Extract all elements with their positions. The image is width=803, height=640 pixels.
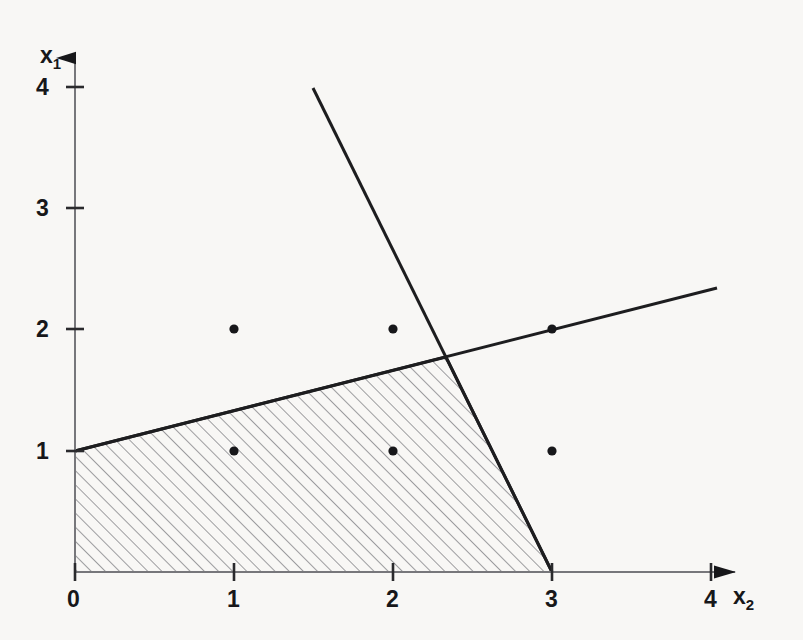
data-point bbox=[229, 324, 238, 333]
y-axis-title-subscript: 1 bbox=[53, 55, 61, 72]
data-point bbox=[388, 324, 397, 333]
x-axis-title: x2 bbox=[733, 585, 754, 612]
data-point bbox=[229, 446, 238, 455]
data-point bbox=[547, 324, 556, 333]
data-point bbox=[547, 446, 556, 455]
x-tick-label-0: 0 bbox=[67, 588, 80, 611]
data-point bbox=[388, 446, 397, 455]
x-tick-label-4: 4 bbox=[704, 588, 717, 611]
x-axis-title-base: x bbox=[733, 583, 746, 609]
y-tick-label-3: 3 bbox=[36, 197, 49, 220]
x-tick-label-2: 2 bbox=[386, 588, 399, 611]
x-axis-title-subscript: 2 bbox=[746, 596, 754, 613]
x-tick-label-3: 3 bbox=[545, 588, 558, 611]
y-tick-label-4: 4 bbox=[36, 76, 49, 99]
y-axis-title: x1 bbox=[40, 44, 61, 71]
y-tick-label-2: 2 bbox=[36, 318, 49, 341]
x-tick-label-1: 1 bbox=[227, 588, 240, 611]
y-tick-label-1: 1 bbox=[36, 440, 49, 463]
chart-figure: x1 x2 4 3 2 1 0 1 2 3 4 bbox=[0, 0, 803, 640]
plot-canvas bbox=[0, 0, 803, 640]
y-axis-title-base: x bbox=[40, 42, 53, 68]
